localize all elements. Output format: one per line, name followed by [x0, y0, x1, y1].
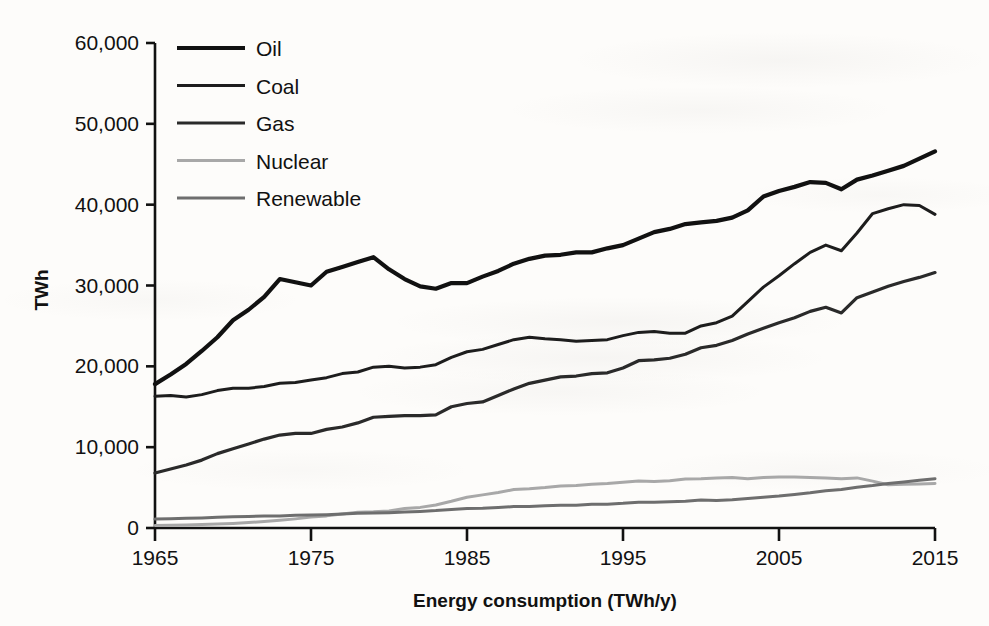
legend-label-oil: Oil: [256, 37, 282, 60]
y-axis-title: TWh: [31, 269, 52, 310]
series-line-nuclear: [155, 477, 935, 526]
y-tick-label: 50,000: [75, 112, 139, 135]
series-line-coal: [155, 205, 935, 397]
y-tick-label: 20,000: [75, 354, 139, 377]
x-tick-label: 2005: [756, 546, 803, 569]
x-axis: 196519751985199520052015: [132, 528, 959, 569]
series-line-gas: [155, 273, 935, 473]
legend-label-coal: Coal: [256, 75, 299, 98]
x-tick-label: 1975: [288, 546, 335, 569]
x-tick-label: 1985: [444, 546, 491, 569]
y-tick-label: 40,000: [75, 193, 139, 216]
x-tick-label: 2015: [912, 546, 959, 569]
x-axis-title: Energy consumption (TWh/y): [413, 590, 677, 611]
x-tick-label: 1965: [132, 546, 179, 569]
y-tick-label: 10,000: [75, 435, 139, 458]
legend-label-renewable: Renewable: [256, 187, 361, 210]
y-tick-label: 30,000: [75, 274, 139, 297]
y-tick-label: 0: [127, 516, 139, 539]
chart-legend: OilCoalGasNuclearRenewable: [177, 37, 361, 210]
y-tick-label: 60,000: [75, 31, 139, 54]
y-axis: 010,00020,00030,00040,00050,00060,000: [75, 31, 155, 539]
energy-consumption-line-chart: 010,00020,00030,00040,00050,00060,000 19…: [0, 0, 989, 626]
legend-label-nuclear: Nuclear: [256, 150, 328, 173]
series-line-renewable: [155, 479, 935, 519]
chart-canvas: 010,00020,00030,00040,00050,00060,000 19…: [0, 0, 989, 626]
x-tick-label: 1995: [600, 546, 647, 569]
legend-label-gas: Gas: [256, 112, 295, 135]
